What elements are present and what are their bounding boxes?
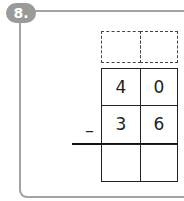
carry-cell-tens[interactable] <box>101 31 141 63</box>
subtrahend-tens: 3 <box>101 105 141 144</box>
carry-cell-ones[interactable] <box>140 31 178 63</box>
minus-sign: – <box>85 119 94 140</box>
subtrahend-ones: 6 <box>140 105 178 144</box>
answer-tens[interactable] <box>101 144 141 182</box>
problem-number-badge: 8. <box>6 3 36 23</box>
minuend-tens: 4 <box>101 68 141 106</box>
minuend-ones: 0 <box>140 68 178 106</box>
answer-ones[interactable] <box>140 144 178 182</box>
